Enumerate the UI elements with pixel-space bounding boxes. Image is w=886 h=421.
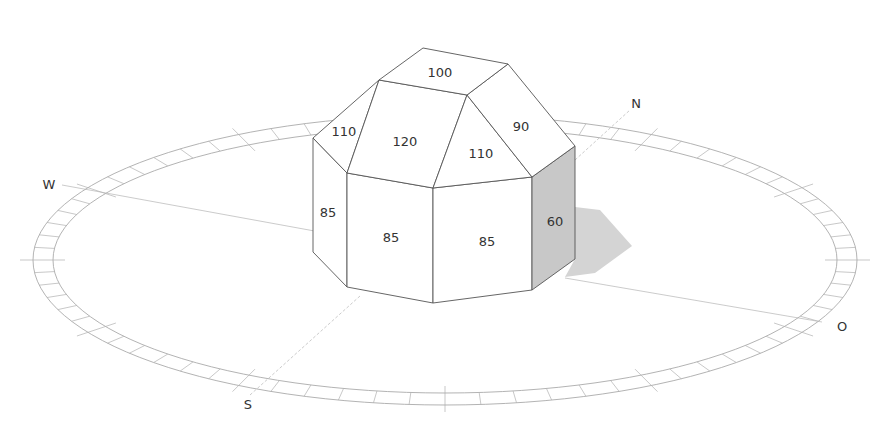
solar-building-diagram: 100 110 120 110 90 85 85 85 60 N W O S: [0, 0, 886, 421]
label-wall-east-shaded: 60: [547, 214, 564, 229]
ring-tick: [824, 222, 843, 225]
ring-tick: [108, 336, 124, 343]
compass-west-label: W: [43, 177, 56, 192]
ring-tick: [831, 235, 851, 237]
ring-tick: [766, 336, 782, 343]
ring-tick: [180, 149, 193, 158]
compass-north-label: N: [631, 96, 641, 111]
ring-tick: [722, 157, 736, 165]
ring-tick: [72, 199, 90, 204]
ring-tick: [579, 124, 586, 135]
ring-tick: [180, 362, 193, 371]
label-roof-south: 120: [393, 134, 418, 149]
ring-tick: [670, 369, 681, 379]
ring-tick: [47, 294, 66, 297]
label-wall-south-east: 85: [479, 234, 496, 249]
ring-tick: [35, 247, 55, 248]
ring-tick: [154, 157, 168, 165]
ring-tick: [338, 388, 343, 400]
ring-tick: [373, 391, 376, 403]
ring-tick: [836, 272, 856, 273]
ring-tick: [611, 129, 619, 140]
building: [313, 48, 575, 303]
ring-tick: [513, 391, 516, 403]
ring-tick: [129, 167, 144, 175]
label-roof-north-west: 110: [332, 124, 357, 139]
west-axis-line: [62, 185, 320, 232]
north-axis-line: [575, 110, 630, 160]
ring-tick: [813, 305, 832, 309]
ring-tick: [129, 345, 144, 353]
ring-tick: [836, 247, 856, 248]
ring-tick: [611, 381, 619, 392]
ring-tick: [209, 141, 220, 151]
ring-tick: [697, 362, 710, 371]
ring-tick: [579, 385, 586, 396]
label-roof-south-east: 110: [469, 146, 494, 161]
ring-tick: [39, 235, 59, 237]
ring-tick: [108, 177, 124, 184]
ring-tick: [58, 305, 77, 309]
ring-tick: [670, 141, 681, 151]
ring-tick: [831, 283, 851, 285]
label-roof-east: 90: [513, 119, 530, 134]
compass-east-label: O: [837, 319, 847, 334]
ring-tick: [546, 388, 551, 400]
ring-tick: [745, 345, 760, 353]
ring-tick: [824, 294, 843, 297]
label-wall-west: 85: [320, 205, 337, 220]
east-axis-line: [565, 278, 822, 322]
ring-tick: [304, 124, 311, 135]
ring-tick: [697, 149, 710, 158]
ring-tick: [722, 354, 736, 362]
ring-tick: [304, 385, 311, 396]
south-axis-line: [250, 296, 360, 395]
ring-tick: [409, 392, 411, 404]
ring-tick: [745, 167, 760, 175]
ring-tick: [271, 129, 279, 140]
ring-tick: [766, 177, 782, 184]
ring-tick: [39, 283, 59, 285]
ring-tick: [58, 210, 77, 214]
compass-south-label: S: [244, 397, 252, 412]
label-roof-top: 100: [428, 65, 453, 80]
ring-tick: [479, 392, 481, 404]
ring-tick: [47, 222, 66, 225]
label-wall-south-west: 85: [383, 230, 400, 245]
ring-tick: [154, 354, 168, 362]
ring-tick: [35, 272, 55, 273]
ring-tick: [271, 381, 279, 392]
ring-tick: [813, 210, 832, 214]
ring-tick: [800, 199, 818, 204]
ring-tick: [209, 369, 220, 379]
ring-tick: [72, 316, 90, 321]
